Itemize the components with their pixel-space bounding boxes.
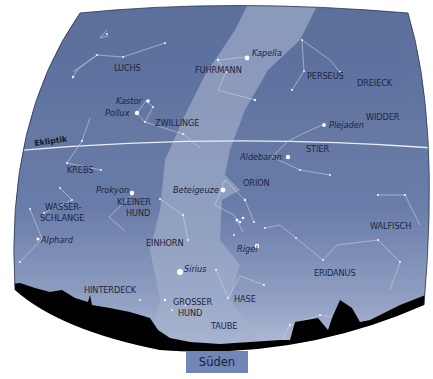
- label-grosser-hund-2: HUND: [178, 309, 202, 317]
- label-perseus: PERSEUS: [307, 72, 344, 80]
- label-wasserschlange-2: SCHLANGE: [40, 214, 84, 222]
- star-beteigeuze: [221, 188, 226, 193]
- label-grosser-hund-1: GROSSER: [173, 298, 212, 306]
- label-orion: ORION: [243, 179, 270, 187]
- label-taube: TAUBE: [211, 322, 237, 330]
- label-hinterdeck: HINTERDECK: [84, 286, 136, 294]
- label-aldebaran: Aldebaran: [240, 153, 282, 161]
- star-sirius: [177, 269, 183, 275]
- label-zwillinge: ZWILLINGE: [155, 119, 199, 127]
- label-krebs: KREBS: [67, 166, 93, 174]
- label-beteigeuze: Beteigeuze: [173, 186, 219, 194]
- label-widder: WIDDER: [366, 113, 399, 121]
- label-eridanus: ERIDANUS: [314, 269, 356, 277]
- label-kapella: Kapella: [252, 49, 282, 57]
- direction-south-label: Süden: [186, 351, 248, 373]
- label-sirius: Sirius: [184, 265, 207, 273]
- label-kleiner-hund-1: KLEINER: [117, 198, 151, 206]
- label-plejaden: Plejaden: [329, 121, 364, 129]
- label-rigel: Rigel: [237, 245, 257, 253]
- label-einhorn: EINHORN: [146, 239, 183, 247]
- star-prokyon: [130, 191, 134, 195]
- label-kleiner-hund-2: HUND: [126, 209, 150, 217]
- south-text: Süden: [199, 355, 235, 369]
- star-alphard: [37, 238, 40, 241]
- star-aldebaran: [286, 155, 290, 159]
- label-alphard: Alphard: [41, 236, 73, 244]
- star-pollux: [135, 111, 139, 115]
- star-kapella: [245, 56, 250, 61]
- label-wasserschlange-1: WASSER-: [45, 203, 81, 211]
- label-prokyon: Prokyon: [96, 186, 129, 194]
- label-fuhrmann: FUHRMANN: [195, 66, 242, 74]
- label-stier: STIER: [306, 145, 329, 153]
- label-pollux: Pollux: [105, 109, 130, 117]
- label-hase: HASE: [234, 295, 256, 303]
- label-walfisch: WALFISCH: [370, 222, 411, 230]
- label-dreieck: DREIECK: [357, 79, 392, 87]
- star-plejaden: [322, 123, 326, 127]
- label-kastor: Kastor: [116, 97, 142, 105]
- label-luchs: LUCHS: [114, 64, 141, 72]
- star-kastor: [146, 99, 150, 103]
